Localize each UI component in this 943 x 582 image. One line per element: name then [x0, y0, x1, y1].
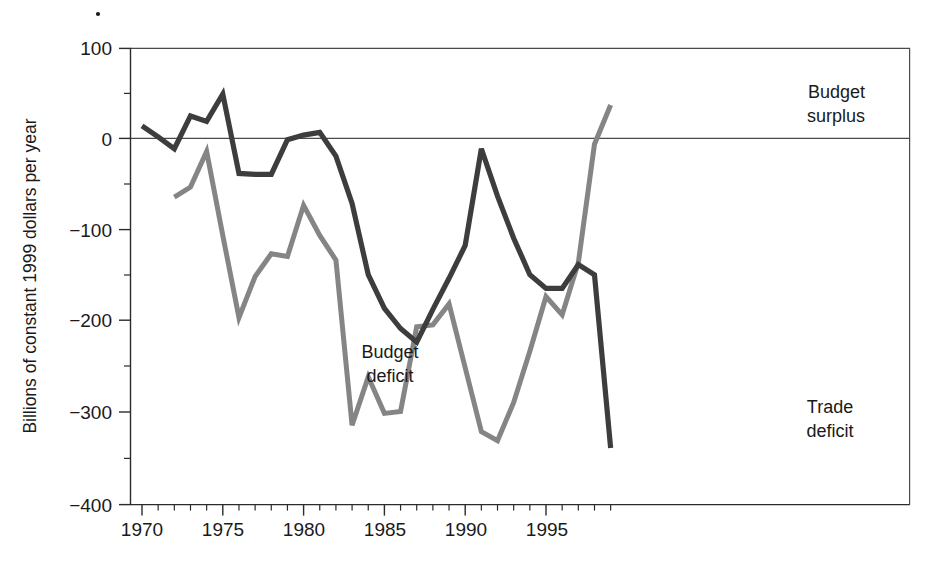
x-axis-tick-labels: 1970 1975 1980 1985 1990 1995 [121, 519, 568, 540]
x-tick-label: 1975 [202, 519, 244, 540]
annotation-budget-surplus: Budget surplus [807, 82, 865, 126]
annotation-line: deficit [366, 366, 413, 386]
y-tick-label: −400 [69, 495, 112, 516]
x-tick-label: 1985 [364, 519, 406, 540]
annotation-line: Trade [807, 397, 853, 417]
line-chart: 100 0 −100 −200 −300 −400 1970 1975 1980… [0, 0, 943, 582]
x-tick-label: 1995 [526, 519, 568, 540]
annotation-line: surplus [807, 106, 865, 126]
y-axis-major-ticks [119, 48, 131, 504]
y-tick-label: 100 [80, 38, 112, 59]
annotation-line: Budget [808, 82, 865, 102]
plot-frame [131, 48, 911, 505]
y-tick-label: −100 [69, 220, 112, 241]
y-axis-title: Billions of constant 1999 dollars per ye… [20, 118, 40, 433]
x-tick-label: 1980 [283, 519, 325, 540]
x-tick-label: 1990 [445, 519, 487, 540]
annotation-line: deficit [806, 421, 853, 441]
annotation-trade-deficit: Trade deficit [806, 397, 853, 441]
x-axis-ticks [142, 505, 611, 516]
y-tick-label: −300 [69, 402, 112, 423]
x-tick-label: 1970 [121, 519, 163, 540]
speck-mark [96, 12, 100, 16]
y-tick-label: 0 [101, 129, 112, 150]
y-tick-label: −200 [69, 310, 112, 331]
annotation-line: Budget [361, 342, 418, 362]
series-line-budget [174, 105, 610, 441]
chart-figure: 100 0 −100 −200 −300 −400 1970 1975 1980… [0, 0, 943, 582]
y-axis-tick-labels: 100 0 −100 −200 −300 −400 [69, 38, 112, 516]
